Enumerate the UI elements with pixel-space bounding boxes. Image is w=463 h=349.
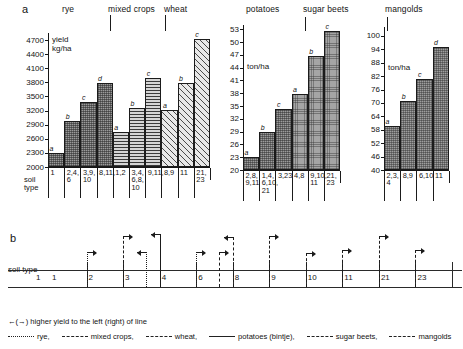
- roots1-ytick-label: 23: [212, 153, 239, 162]
- roots2-ytick-mark: [381, 90, 384, 91]
- bar-rye-1: [64, 121, 80, 167]
- marker-line: [233, 237, 234, 287]
- soil-type-label-1[interactable]: 1: [52, 273, 56, 282]
- bar-sugar-beets-1: [308, 56, 324, 170]
- arrow-left-icon: [151, 232, 155, 238]
- soil-type-label-3[interactable]: 3: [125, 273, 129, 282]
- x-axis-cell-label: 3,9,10: [83, 169, 95, 184]
- arrow-right-icon: [348, 248, 352, 254]
- marker-line: [160, 234, 161, 287]
- x-axis-cell-label: 2,8,9,11: [246, 172, 260, 187]
- legend-swatch: [62, 336, 88, 337]
- cereals-ytick-label: 2000: [17, 163, 44, 172]
- x-axis-cell: 21,23: [194, 168, 210, 198]
- arrow-right-icon: [93, 250, 97, 256]
- x-axis-endcap: [210, 168, 211, 180]
- x-axis-cell-label: 1: [51, 169, 55, 176]
- arrow-left-icon: ←: [8, 317, 16, 326]
- bar-sugar-beets-0: [292, 94, 308, 170]
- group-rule-mangolds: [387, 17, 388, 31]
- roots1-unit-label: ton/ha: [247, 63, 269, 72]
- legend-swatch: [8, 336, 34, 337]
- roots2-ytick-label: 94: [353, 45, 380, 54]
- roots1-ytick-mark: [240, 93, 243, 94]
- arrow-right-icon: [312, 251, 316, 257]
- significance-letter: a: [50, 145, 54, 152]
- bar-rye-3: [97, 83, 113, 167]
- soil-type-caption: soil type: [24, 176, 38, 193]
- panel-a-letter: a: [22, 3, 28, 15]
- x-axis-cell-label: 4,8: [294, 172, 304, 179]
- significance-letter: c: [147, 70, 151, 77]
- x-axis-cell: 3,9,10: [80, 168, 96, 198]
- x-axis-cell: 2,8,9,11: [243, 171, 259, 201]
- marker-line: [196, 252, 197, 287]
- legend-item-wheat: wheat,: [146, 332, 197, 341]
- roots1-ytick-mark: [240, 119, 243, 120]
- soil-type-label-4[interactable]: 4: [162, 273, 166, 282]
- soil-type-label-2[interactable]: 2: [89, 273, 93, 282]
- significance-letter: d: [98, 75, 102, 82]
- legend-label: mixed crops,: [91, 332, 134, 341]
- significance-letter: a: [163, 102, 167, 109]
- cereals-ytick-mark: [45, 111, 48, 112]
- numberline-rule-1: [8, 287, 462, 288]
- soil-type-label-10[interactable]: 10: [308, 273, 317, 282]
- group-rule-mixed-crops: [110, 15, 111, 31]
- roots1-ytick-mark: [240, 29, 243, 30]
- roots1-ytick-label: 53: [212, 25, 239, 34]
- cereals-ytick-mark: [45, 139, 48, 140]
- soil-type-label-8[interactable]: 8: [235, 273, 239, 282]
- cereals-ytick-mark: [45, 40, 48, 41]
- marker-line: [87, 252, 88, 287]
- x-axis-cell: 1,2: [113, 168, 129, 198]
- cereals-ytick-label: 3800: [17, 78, 44, 87]
- legend-arrow-note: ←(→) higher yield to the left (right) of…: [8, 317, 147, 326]
- x-axis-endcap: [340, 171, 341, 183]
- roots1-ytick-label: 29: [212, 127, 239, 136]
- soil-type-label-21[interactable]: 21: [381, 273, 390, 282]
- soil-type-label-9[interactable]: 9: [271, 273, 275, 282]
- x-axis-cell: 11: [178, 168, 194, 198]
- legend-item-potatoes-bintje: potatoes (bintje),: [209, 332, 295, 341]
- group-rule-sugar-beets: [305, 17, 306, 31]
- marker-line: [123, 236, 124, 287]
- legend-row: rye,mixed crops,wheat,potatoes (bintje),…: [8, 331, 451, 341]
- x-axis-cell-label: 11: [435, 172, 443, 179]
- significance-letter: c: [82, 94, 86, 101]
- legend-swatch: [389, 336, 415, 337]
- significance-letter: b: [402, 93, 406, 100]
- significance-letter: a: [386, 118, 390, 125]
- bar-mixed-crops-2: [145, 78, 161, 167]
- cereals-ytick-label: 2300: [17, 148, 44, 157]
- arrow-left-icon: [137, 250, 141, 256]
- arrow-right-icon: [225, 250, 229, 256]
- significance-letter: a: [293, 86, 297, 93]
- panel-b-letter: b: [10, 232, 16, 244]
- legend-label: mangolds: [418, 332, 451, 341]
- roots1-ytick-label: 47: [212, 50, 239, 59]
- significance-letter: b: [261, 124, 265, 131]
- roots1-ytick-label: 41: [212, 76, 239, 85]
- soil-type-label-6[interactable]: 6: [198, 273, 202, 282]
- marker-line: [415, 250, 416, 287]
- cereals-ytick-label: 3500: [17, 92, 44, 101]
- cereals-ytick-label: 4400: [17, 50, 44, 59]
- bar-mangolds-3: [433, 47, 449, 170]
- bar-wheat-0: [161, 110, 177, 167]
- legend-item-rye: rye,: [8, 332, 50, 341]
- x-axis-cell: 11: [433, 171, 449, 201]
- soil-type-label-11[interactable]: 11: [344, 273, 352, 282]
- soil-type-label-23[interactable]: 23: [417, 273, 426, 282]
- roots2-ytick-label: 40: [353, 166, 380, 175]
- roots2-unit-label: ton/ha: [388, 64, 410, 73]
- significance-letter: c: [277, 101, 281, 108]
- x-axis-cell: 2,3,4: [384, 171, 400, 201]
- arrow-right-icon: [275, 234, 279, 240]
- x-axis-cell-label: 2,3,4: [387, 172, 399, 187]
- roots1-ytick-label: 38: [212, 89, 239, 98]
- roots1-unit: ton/ha: [247, 63, 269, 72]
- roots2-ytick-label: 46: [353, 152, 380, 161]
- group-title-sugar-beets: sugar beets: [303, 4, 349, 14]
- significance-letter: c: [326, 23, 330, 30]
